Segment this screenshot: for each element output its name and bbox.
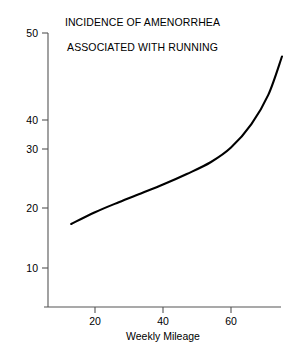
x-tick-label-40: 40 [157,315,169,327]
x-axis-ticks [95,307,231,313]
x-tick-label-20: 20 [89,315,101,327]
data-series-line [71,57,282,224]
plot-area: 50 40 30 20 10 20 40 60 Weekly Mileage [0,0,285,343]
x-tick-label-60: 60 [225,315,237,327]
y-axis-tick-labels: 50 40 30 20 10 [26,27,38,274]
y-tick-label-30: 30 [26,143,38,155]
y-axis-ticks [42,33,48,268]
chart-figure: INCIDENCE OF AMENORRHEA ASSOCIATED WITH … [0,0,285,343]
y-tick-label-20: 20 [26,202,38,214]
y-tick-label-10: 10 [26,262,38,274]
y-tick-label-50: 50 [26,27,38,39]
x-axis-tick-labels: 20 40 60 [89,315,237,327]
y-tick-label-40: 40 [26,114,38,126]
x-axis-title: Weekly Mileage [126,330,200,342]
